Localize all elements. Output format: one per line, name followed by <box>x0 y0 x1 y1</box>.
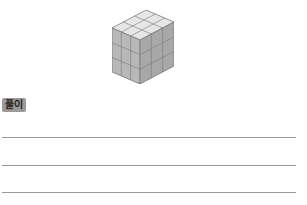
solution-label: 풀이 <box>2 98 26 112</box>
cube-figure <box>112 10 174 84</box>
answer-line[interactable] <box>2 137 296 138</box>
answer-line[interactable] <box>2 192 296 193</box>
answer-line[interactable] <box>2 165 296 166</box>
